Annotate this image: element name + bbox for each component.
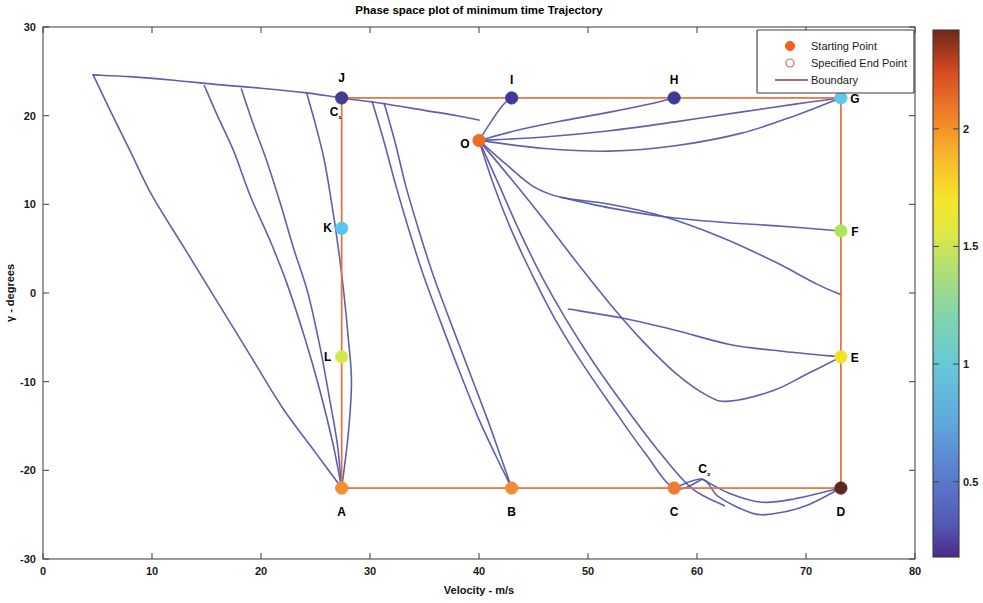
legend: Starting Point Specified End Point Bound… [757,30,914,93]
colorbar-tick-label: 1.5 [963,240,978,252]
point-label-C: C₂ [698,462,711,478]
x-axis-label: Velocity - m/s [444,584,514,596]
x-tick-label: 20 [255,565,267,577]
data-point-J [335,92,347,104]
data-point-D [835,482,847,494]
y-tick-label: -20 [20,464,36,476]
point-label-H: H [670,73,679,87]
x-tick-label: 30 [364,565,376,577]
trajectory-curve [241,89,341,488]
trajectory-curve [568,309,841,357]
x-axis-ticks: 01020304050607080 [40,27,921,577]
x-tick-label: 60 [691,565,703,577]
boundary-path [342,98,841,488]
colorbar-tick-label: 2 [963,123,969,135]
trajectory-curve [479,140,841,294]
point-label-J: J [338,71,345,85]
point-label-F: F [851,225,858,239]
y-tick-label: 30 [24,21,36,33]
point-label-C: C₁ [330,105,343,121]
point-label-E: E [851,351,859,365]
trajectory-curve [479,140,841,401]
point-label-A: A [337,505,346,519]
trajectory-curve [479,98,512,141]
trajectory-curve [561,197,841,231]
data-point-G [835,92,847,104]
chart-title: Phase space plot of minimum time Traject… [355,4,603,16]
figure-root: Phase space plot of minimum time Traject… [0,0,983,603]
point-label-O: O [460,137,469,151]
colorbar-tick-label: 1 [963,358,969,370]
legend-label-starting-point: Starting Point [811,40,877,52]
data-point-B [506,482,518,494]
data-point-E [835,351,847,363]
data-point-L [335,351,347,363]
point-label-B: B [507,505,516,519]
point-label-L: L [324,350,331,364]
phase-space-chart: Phase space plot of minimum time Traject… [0,0,983,603]
x-tick-label: 0 [40,565,46,577]
x-tick-label: 40 [473,565,485,577]
point-label-G: G [850,92,859,106]
trajectory-curve [384,103,512,488]
data-point-H [668,92,680,104]
y-tick-label: 10 [24,198,36,210]
trajectory-curve [479,140,724,505]
legend-label-boundary: Boundary [811,74,859,86]
data-point-I [506,92,518,104]
colorbar-tick-label: 0.5 [963,476,978,488]
y-tick-label: -10 [20,376,36,388]
legend-marker-starting-point [785,41,794,50]
data-point-A [335,482,347,494]
data-point-C [668,482,680,494]
colorbar-gradient [933,30,959,557]
x-tick-label: 50 [582,565,594,577]
y-tick-label: 0 [30,287,36,299]
legend-label-specified-end-point: Specified End Point [811,57,907,69]
annotated-point-labels: ABCDEFGHIJKLOC₁C₂ [323,71,859,519]
point-label-C: C [670,505,679,519]
point-label-K: K [323,221,332,235]
point-label-I: I [510,73,513,87]
point-label-D: D [837,505,846,519]
y-tick-label: 20 [24,110,36,122]
data-point-K [335,222,347,234]
colorbar: 0.511.52 [933,30,978,557]
boundary-rectangle [342,98,841,488]
annotated-point-markers [335,92,847,495]
trajectory-curve [674,479,841,515]
plot-frame [43,27,915,559]
y-axis-label: γ - degrees [4,264,16,322]
x-tick-label: 10 [146,565,158,577]
y-tick-label: -30 [20,553,36,565]
data-point-F [835,225,847,237]
x-tick-label: 70 [800,565,812,577]
x-tick-label: 80 [909,565,921,577]
y-axis-ticks: -30-20-100102030 [20,21,915,565]
data-point-O [473,134,485,146]
trajectory-curve [479,140,702,489]
